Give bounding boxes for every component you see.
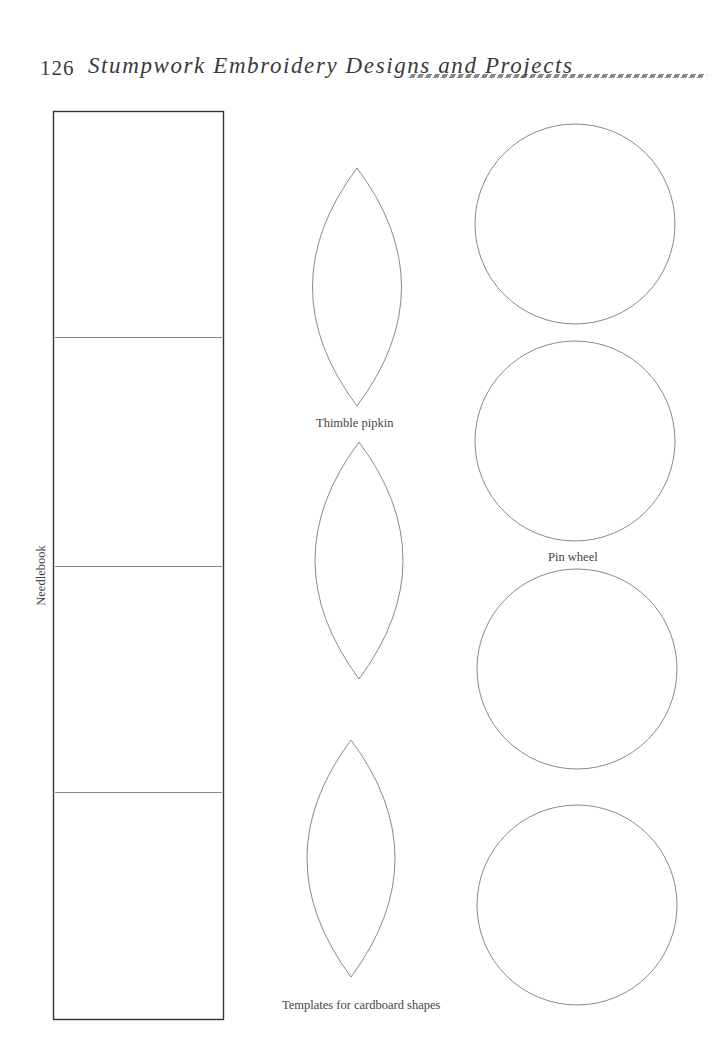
templates-caption: Templates for cardboard shapes xyxy=(282,998,440,1013)
circle-shape-4 xyxy=(477,805,677,1005)
circle-shape-2 xyxy=(475,341,675,541)
pin-wheel-label: Pin wheel xyxy=(548,550,598,565)
circle-shape-3 xyxy=(477,569,677,769)
thimble-pipkin-templates xyxy=(307,168,403,977)
thimble-pipkin-label: Thimble pipkin xyxy=(316,416,393,431)
templates-artwork xyxy=(0,0,717,1051)
needlebook-label: Needlebook xyxy=(34,541,49,611)
circle-shape-1 xyxy=(475,124,675,324)
needlebook-template xyxy=(54,112,224,1020)
leaf-shape-1 xyxy=(313,168,402,406)
needlebook-outline xyxy=(54,112,224,1020)
leaf-shape-3 xyxy=(307,740,395,977)
leaf-shape-2 xyxy=(315,442,403,679)
